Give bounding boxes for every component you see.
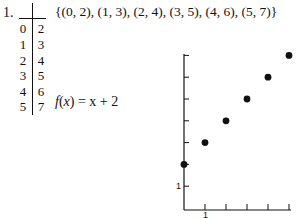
data-point <box>244 96 251 103</box>
data-point <box>181 161 188 168</box>
tick-labels: 11 <box>176 181 208 218</box>
data-point <box>202 139 209 146</box>
data-points <box>181 52 293 168</box>
data-point <box>286 52 293 59</box>
x-ticks <box>205 204 289 210</box>
y-tick-label: 1 <box>176 181 181 191</box>
data-point <box>265 74 272 81</box>
x-tick-label: 1 <box>203 210 208 218</box>
data-point <box>223 117 230 124</box>
scatter-plot: 11 <box>0 0 299 218</box>
